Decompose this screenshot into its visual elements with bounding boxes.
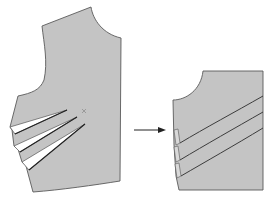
result-outline xyxy=(173,71,263,190)
left-bodice-piece xyxy=(10,7,121,192)
transform-arrow-icon xyxy=(134,127,166,133)
right-bodice-piece xyxy=(173,71,263,190)
pattern-diagram xyxy=(0,0,270,198)
